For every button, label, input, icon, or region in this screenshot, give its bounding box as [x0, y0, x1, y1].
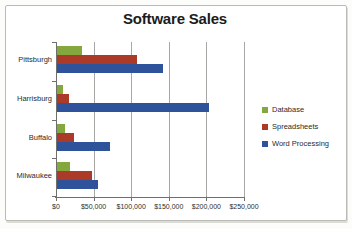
- x-axis-label: $250,000: [229, 203, 258, 210]
- plot-area: [56, 42, 244, 197]
- y-axis-tick: [52, 158, 56, 159]
- gridline: [244, 42, 245, 197]
- chart-screenshot: Software Sales Database Spreadsheets Wor…: [0, 0, 352, 229]
- bar-milwaukee-database: [57, 162, 70, 171]
- x-axis-label: $100,000: [117, 203, 146, 210]
- database-swatch-icon: [262, 107, 268, 113]
- category-label-pittsburgh: Pittsburgh: [6, 55, 52, 64]
- x-axis-tick: [56, 197, 57, 201]
- y-axis-tick: [52, 196, 56, 197]
- bar-milwaukee-spreadsheets: [57, 171, 92, 180]
- bar-buffalo-word-processing: [57, 142, 110, 151]
- x-axis-label: $50,000: [81, 203, 106, 210]
- category-label-buffalo: Buffalo: [6, 133, 52, 142]
- legend-item-database: Database: [262, 101, 329, 118]
- y-axis-tick: [52, 120, 56, 121]
- bar-harrisburg-database: [57, 85, 63, 94]
- x-axis-tick: [169, 197, 170, 201]
- gridline: [169, 42, 170, 197]
- bar-harrisburg-word-processing: [57, 103, 209, 112]
- x-axis-label: $0: [52, 203, 60, 210]
- chart-title: Software Sales: [5, 10, 345, 27]
- x-axis-label: $150,000: [154, 203, 183, 210]
- x-axis-tick: [131, 197, 132, 201]
- bar-buffalo-database: [57, 124, 65, 133]
- bar-pittsburgh-word-processing: [57, 64, 163, 73]
- bar-buffalo-spreadsheets: [57, 133, 74, 142]
- x-axis-tick: [206, 197, 207, 201]
- y-axis-tick: [52, 81, 56, 82]
- legend: Database Spreadsheets Word Processing: [262, 101, 329, 152]
- bar-milwaukee-word-processing: [57, 180, 98, 189]
- legend-label: Spreadsheets: [272, 122, 318, 131]
- bar-pittsburgh-spreadsheets: [57, 55, 137, 64]
- bar-harrisburg-spreadsheets: [57, 94, 69, 103]
- x-axis-tick: [244, 197, 245, 201]
- word-processing-swatch-icon: [262, 141, 268, 147]
- bar-pittsburgh-database: [57, 46, 82, 55]
- x-axis-tick: [94, 197, 95, 201]
- category-label-milwaukee: Milwaukee: [6, 171, 52, 180]
- category-label-harrisburg: Harrisburg: [6, 94, 52, 103]
- y-axis-tick: [52, 42, 56, 43]
- legend-label: Word Processing: [272, 139, 329, 148]
- gridline: [206, 42, 207, 197]
- legend-label: Database: [272, 105, 304, 114]
- legend-item-word-processing: Word Processing: [262, 135, 329, 152]
- spreadsheets-swatch-icon: [262, 124, 268, 130]
- x-axis-label: $200,000: [192, 203, 221, 210]
- x-axis-line: [55, 197, 245, 198]
- legend-item-spreadsheets: Spreadsheets: [262, 118, 329, 135]
